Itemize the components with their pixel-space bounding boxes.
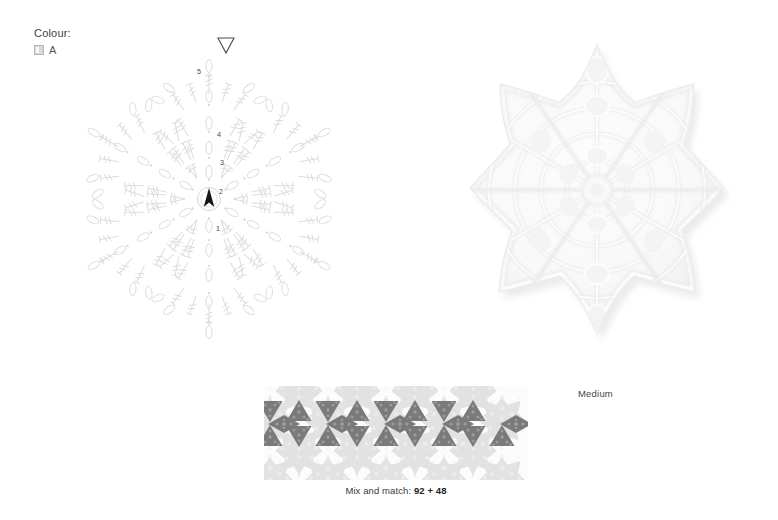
stitch-chart-svg: 1 2 3 4 5 — [36, 28, 382, 370]
crochet-star-photo-svg — [432, 28, 762, 376]
mix-and-match-caption-prefix: Mix and match: — [345, 485, 414, 496]
mix-and-match-svg — [264, 386, 528, 480]
chart-round-label-5: 5 — [197, 67, 201, 76]
mix-and-match-strip: Mix and match: 92 + 48 — [264, 386, 528, 480]
chart-end-marker-icon — [218, 38, 234, 53]
chart-start-marker-icon — [204, 188, 215, 207]
chart-round-label-4: 4 — [217, 130, 221, 139]
chart-round-label-1: 1 — [216, 224, 220, 233]
stitch-chart: 1 2 3 4 5 — [36, 28, 382, 370]
chart-round-label-3: 3 — [220, 158, 224, 167]
chart-round-label-2: 2 — [219, 187, 223, 196]
mix-and-match-caption-value: 92 + 48 — [414, 485, 447, 496]
crochet-star-photo — [432, 28, 762, 376]
photo-caption: Medium — [578, 388, 613, 399]
page-root: Colour: A — [0, 0, 778, 520]
mix-and-match-caption: Mix and match: 92 + 48 — [264, 485, 528, 496]
